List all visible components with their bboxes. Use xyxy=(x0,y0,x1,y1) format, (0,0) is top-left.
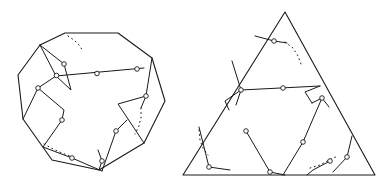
node-marker-4 xyxy=(62,62,67,67)
node-marker-7 xyxy=(345,155,350,160)
node-marker-6 xyxy=(301,140,306,145)
node-marker-9 xyxy=(70,156,75,161)
node-marker-9 xyxy=(268,170,273,175)
node-marker-10 xyxy=(100,159,105,164)
node-marker-8 xyxy=(144,94,149,99)
node-marker-7 xyxy=(114,129,119,134)
node-marker-3 xyxy=(239,88,244,93)
geometric-figure-svg xyxy=(0,0,390,191)
figure-canvas xyxy=(0,0,390,191)
node-marker-10 xyxy=(328,159,333,164)
node-marker-2 xyxy=(95,71,100,76)
node-marker-8 xyxy=(207,165,212,170)
node-marker-6 xyxy=(60,118,65,123)
node-marker-5 xyxy=(244,129,249,134)
node-marker-2 xyxy=(281,86,286,91)
node-marker-1 xyxy=(272,39,277,44)
node-marker-1 xyxy=(54,73,59,78)
node-marker-5 xyxy=(36,86,41,91)
node-marker-4 xyxy=(320,96,325,101)
node-marker-3 xyxy=(135,67,140,72)
